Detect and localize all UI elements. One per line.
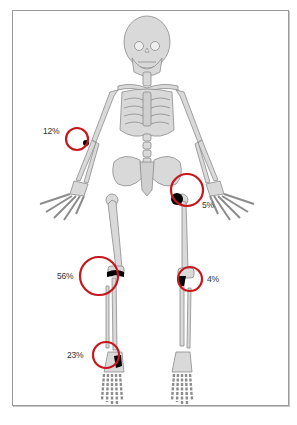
marker-label-ankle: 23% <box>67 350 83 360</box>
marker-label-hip: 5% <box>202 200 214 210</box>
marker-label-knee-left: 4% <box>207 274 219 284</box>
skull <box>124 16 170 76</box>
foot-left <box>172 352 192 404</box>
hand-right <box>40 181 88 220</box>
marker-ring-elbow <box>66 128 88 150</box>
ribcage <box>120 89 174 136</box>
marker-label-elbow: 12% <box>43 126 59 136</box>
skeleton-illustration <box>0 0 297 425</box>
marker-label-knee-right: 56% <box>57 271 73 281</box>
